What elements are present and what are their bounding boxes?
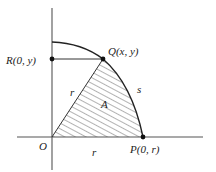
label-r-point: R(0, y): [5, 54, 36, 67]
label-arc-length: s: [137, 83, 141, 95]
hatched-sector-area: [52, 59, 143, 137]
point-p: [141, 135, 146, 140]
label-radius-slanted: r: [70, 86, 75, 98]
label-area: A: [100, 98, 108, 110]
sector-diagram: R(0, y) Q(x, y) P(0, r) O r r A s: [0, 0, 216, 172]
label-radius-horizontal: r: [92, 146, 97, 158]
label-q-point: Q(x, y): [108, 45, 139, 58]
point-q: [101, 57, 106, 62]
label-p-point: P(0, r): [129, 143, 160, 156]
point-r: [50, 57, 55, 62]
label-origin: O: [39, 140, 47, 152]
